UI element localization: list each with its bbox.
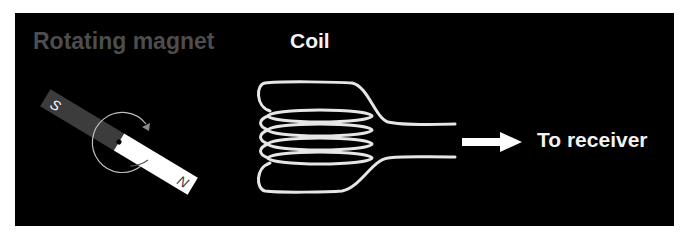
diagram-graphics: S N — [0, 0, 689, 234]
bar-magnet: S N — [40, 89, 198, 195]
arrow-right-icon — [462, 132, 522, 152]
coil-icon — [258, 82, 455, 192]
south-pole-half — [40, 89, 124, 150]
